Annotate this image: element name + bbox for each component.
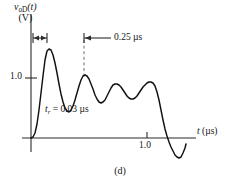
rise-time-annotation-label: tr = 0.03 µs [45,105,89,115]
y-axis-quantity-argument: (t) [27,1,36,12]
y-tick-label-1-0: 1.0 [10,72,22,82]
rise-time-value: = 0.03 µs [50,104,88,114]
panel-caption: (d) [0,166,240,176]
y-axis-unit: (V) [14,13,37,23]
x-axis-label: t (µs) [197,127,218,137]
x-axis-symbol: t [197,126,200,136]
waveform-figure: | --> voD(t) (V) 1.0 1.0 0.25 µs tr = 0.… [0,0,240,189]
rise-time-arrow-marker [33,33,47,43]
x-axis-unit: (µs) [202,126,218,136]
ring-period-annotation-label: 0.25 µs [114,33,142,43]
x-tick-label-1-0: 1.0 [139,141,151,151]
waveform-plot: | --> [0,0,240,189]
y-axis-label: voD(t) (V) [14,2,37,23]
ring-period-arrow-marker [84,33,111,43]
